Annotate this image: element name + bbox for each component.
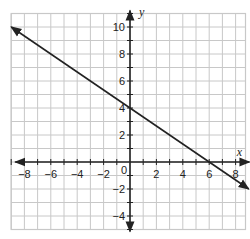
y-tick-label: 6 bbox=[119, 75, 125, 87]
x-tick-label: −4 bbox=[71, 168, 84, 180]
x-tick-label: 6 bbox=[206, 168, 212, 180]
x-tick-label: 4 bbox=[180, 168, 186, 180]
x-tick-label: −8 bbox=[18, 168, 31, 180]
y-tick-label: −4 bbox=[112, 210, 125, 222]
y-tick-label: 8 bbox=[119, 48, 125, 60]
x-tick-label: 2 bbox=[153, 168, 159, 180]
x-tick-label: −2 bbox=[97, 168, 110, 180]
y-tick-label: −2 bbox=[112, 183, 125, 195]
x-tick-label: −6 bbox=[45, 168, 58, 180]
y-tick-label: 10 bbox=[113, 21, 125, 33]
y-tick-label: 2 bbox=[119, 129, 125, 141]
y-axis-label: y bbox=[138, 5, 145, 19]
coordinate-plane: −8−6−4−202468−4−2246810xy bbox=[0, 0, 250, 239]
x-tick-label: 0 bbox=[121, 164, 127, 176]
x-axis-label: x bbox=[236, 145, 243, 159]
